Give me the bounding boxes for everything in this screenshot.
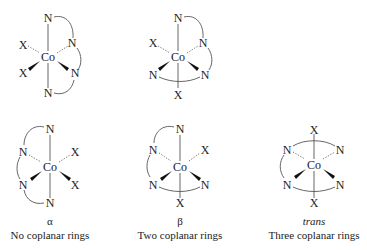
atom-x: X (310, 196, 319, 210)
atom-n: N (71, 66, 80, 80)
atom-n: N (201, 68, 210, 82)
caption-trans: Three coplanar rings (268, 229, 359, 241)
bond-dashed (59, 155, 70, 162)
structure-top-middle: N X N Co N N X (149, 11, 212, 102)
atom-n: N (149, 143, 158, 157)
atom-x: X (176, 196, 185, 210)
structure-alpha: N N X Co N X N α No coplanar rings (11, 122, 90, 241)
bond-wedge (294, 169, 306, 179)
isomer-label-trans: trans (303, 215, 326, 227)
bond-dashed (189, 153, 200, 161)
atom-co: Co (171, 50, 185, 64)
coordination-isomers-diagram: N X N Co X N N N X N Co N N X N (0, 0, 367, 250)
atom-x: X (174, 88, 183, 102)
atom-co: Co (43, 160, 57, 174)
structure-top-left: N X N Co X N N (19, 11, 81, 100)
bond-wedge (187, 61, 199, 71)
atom-n: N (283, 178, 292, 192)
chelate-ring (24, 190, 44, 203)
bond-wedge (59, 171, 71, 181)
chelate-ring (280, 155, 284, 178)
atom-x: X (149, 36, 158, 50)
bond-dashed (293, 152, 305, 159)
bond-dashed (57, 46, 68, 53)
chelate-ring (147, 155, 150, 177)
bond-dashed (187, 46, 198, 53)
atom-x: X (19, 66, 28, 80)
bond-wedge (160, 171, 172, 181)
atom-co: Co (41, 50, 55, 64)
atom-n: N (44, 11, 53, 25)
atom-n: N (19, 178, 28, 192)
atom-n: N (176, 122, 185, 136)
bond-wedge (323, 169, 335, 179)
atom-x: X (71, 145, 80, 159)
atom-n: N (46, 196, 55, 210)
atom-n: N (44, 86, 53, 100)
bond-dashed (29, 155, 41, 162)
chelate-ring (24, 126, 44, 145)
atom-n: N (201, 178, 210, 192)
atom-n: N (46, 122, 55, 136)
atom-co: Co (173, 160, 187, 174)
atom-x: X (310, 123, 319, 137)
chelate-ring (159, 77, 200, 82)
caption-alpha: No coplanar rings (11, 229, 90, 241)
atom-n: N (199, 36, 208, 50)
isomer-label-beta: β (177, 215, 183, 227)
chelate-ring (54, 80, 74, 94)
bond-wedge (158, 61, 170, 71)
atom-n: N (283, 143, 292, 157)
isomer-label-alpha: α (47, 215, 53, 227)
structure-trans: X N N Co N N X trans Three coplanar ring… (268, 123, 359, 241)
bond-dashed (159, 153, 171, 161)
chelate-ring (154, 126, 174, 143)
atom-n: N (174, 11, 183, 25)
chelate-ring (184, 16, 203, 38)
structure-beta: N N X Co N N X β Two coplanar rings (138, 122, 223, 241)
bond-dashed (28, 46, 40, 53)
bond-dashed (323, 152, 335, 159)
bond-wedge (28, 61, 40, 71)
atom-n: N (68, 36, 77, 50)
bond-wedge (30, 171, 42, 181)
atom-x: X (71, 178, 80, 192)
chelate-ring (208, 48, 212, 70)
atom-x: X (19, 38, 28, 52)
bond-wedge (57, 61, 69, 71)
atom-x: X (201, 143, 210, 157)
bond-wedge (189, 171, 201, 181)
bond-dashed (158, 46, 170, 53)
caption-beta: Two coplanar rings (138, 229, 223, 241)
chelate-ring (159, 187, 200, 192)
atom-co: Co (307, 158, 321, 172)
atom-n: N (149, 178, 158, 192)
atom-n: N (19, 145, 28, 159)
chelate-ring (17, 157, 20, 179)
atom-n: N (336, 143, 345, 157)
atom-n: N (149, 68, 158, 82)
chelate-ring (54, 16, 73, 38)
atom-n: N (336, 178, 345, 192)
